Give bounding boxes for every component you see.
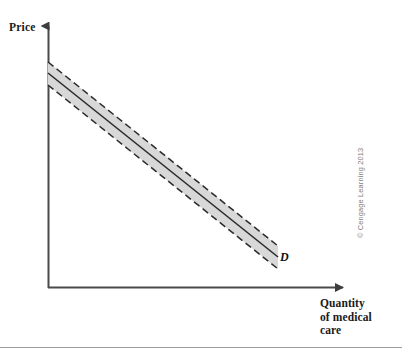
demand-curve-figure: Price Quantityof medicalcare D © Cengage…: [0, 0, 402, 356]
x-axis-label-line1: Quantity: [320, 297, 365, 309]
axes-group: [48, 26, 343, 288]
x-axis-label: Quantityof medicalcare: [320, 297, 372, 338]
x-axis-label-line3: care: [320, 324, 341, 336]
y-axis-label: Price: [9, 21, 36, 35]
x-axis-label-line2: of medical: [320, 311, 372, 323]
bottom-divider: [0, 347, 402, 348]
copyright-notice: © Cengage Learning 2013: [356, 142, 365, 238]
demand-lower-bound-line: [48, 85, 278, 269]
demand-curve-line: [48, 73, 278, 257]
demand-curve-label: D: [280, 250, 289, 265]
demand-upper-bound-line: [48, 62, 278, 246]
demand-band-group: [48, 62, 278, 269]
